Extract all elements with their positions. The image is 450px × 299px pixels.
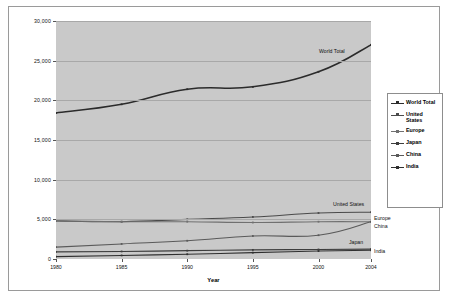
legend-label: World Total <box>406 99 439 105</box>
series-marker <box>370 221 371 223</box>
y-tick-label: 5,000 <box>11 216 51 222</box>
y-tick-label: 15,000 <box>11 137 51 143</box>
series-marker <box>121 251 123 253</box>
series-marker <box>121 221 123 223</box>
legend-label: United States <box>406 111 439 123</box>
legend-item-europe[interactable]: Europe <box>391 127 439 135</box>
series-marker <box>252 249 254 251</box>
series-label-china: China <box>374 223 388 229</box>
chart-legend: World TotalUnited StatesEuropeJapanChina… <box>387 93 443 208</box>
series-marker <box>56 112 57 114</box>
legend-swatch-icon <box>391 152 404 159</box>
x-tick-label: 2004 <box>351 264 391 270</box>
y-tick-label: 0 <box>11 256 51 262</box>
plot-area <box>56 21 371 259</box>
y-tick-mark <box>53 180 56 181</box>
series-line <box>56 222 371 247</box>
gridline <box>56 140 371 141</box>
legend-swatch-icon <box>391 128 404 135</box>
gridline <box>56 61 371 62</box>
legend-item-japan[interactable]: Japan <box>391 139 439 147</box>
x-tick-mark <box>253 259 254 262</box>
x-tick-label: 1985 <box>102 264 142 270</box>
legend-label: China <box>406 151 439 157</box>
series-marker <box>186 88 188 90</box>
legend-swatch-icon <box>391 100 404 107</box>
legend-label: India <box>406 163 439 169</box>
x-axis-title: Year <box>56 277 371 283</box>
gridline <box>56 21 371 22</box>
y-tick-mark <box>53 100 56 101</box>
legend-label: Europe <box>406 127 439 133</box>
legend-item-china[interactable]: China <box>391 151 439 159</box>
gridline <box>56 180 371 181</box>
y-tick-mark <box>53 140 56 141</box>
legend-item-united-states[interactable]: United States <box>391 111 439 123</box>
series-marker <box>252 86 254 88</box>
series-marker <box>252 216 254 218</box>
series-marker <box>252 235 254 237</box>
series-marker <box>186 253 188 255</box>
series-marker <box>318 234 320 236</box>
legend-item-india[interactable]: India <box>391 163 439 171</box>
y-tick-mark <box>53 61 56 62</box>
series-marker <box>252 222 254 224</box>
y-tick-mark <box>53 21 56 22</box>
x-tick-label: 1995 <box>233 264 273 270</box>
series-marker <box>318 221 320 223</box>
series-label-japan: Japan <box>349 239 363 245</box>
series-label-europe: Europe <box>374 215 391 221</box>
series-marker <box>121 255 123 257</box>
gridline <box>56 219 371 220</box>
gridline <box>56 100 371 101</box>
x-tick-mark <box>371 259 372 262</box>
legend-item-world-total[interactable]: World Total <box>391 99 439 107</box>
y-tick-label: 20,000 <box>11 97 51 103</box>
x-tick-mark <box>56 259 57 262</box>
series-label-india: India <box>374 248 385 254</box>
x-tick-mark <box>187 259 188 262</box>
series-marker <box>56 246 57 248</box>
x-tick-label: 1980 <box>36 264 76 270</box>
series-marker <box>186 240 188 242</box>
series-marker <box>186 250 188 252</box>
series-line <box>56 45 371 113</box>
y-tick-label: 30,000 <box>11 18 51 24</box>
series-marker <box>370 211 371 213</box>
y-tick-label: 25,000 <box>11 58 51 64</box>
series-line <box>56 212 371 222</box>
series-label-united-states: United States <box>333 201 364 207</box>
legend-swatch-icon <box>391 112 404 119</box>
series-marker <box>370 249 371 251</box>
series-marker <box>56 256 57 258</box>
series-marker <box>318 249 320 251</box>
legend-swatch-icon <box>391 140 404 147</box>
chart-container: Million Metric Tons of Carbon Dioxide 05… <box>8 6 440 291</box>
series-marker <box>318 71 320 73</box>
x-tick-mark <box>122 259 123 262</box>
y-tick-mark <box>53 219 56 220</box>
series-marker <box>121 243 123 245</box>
series-marker <box>318 250 320 252</box>
x-tick-label: 2000 <box>299 264 339 270</box>
series-marker <box>252 252 254 254</box>
x-tick-label: 1990 <box>167 264 207 270</box>
series-marker <box>56 251 57 253</box>
y-tick-label: 10,000 <box>11 177 51 183</box>
series-label-world-total: World Total <box>319 48 345 54</box>
series-marker <box>318 212 320 214</box>
x-tick-mark <box>319 259 320 262</box>
series-marker <box>121 103 123 105</box>
series-marker <box>186 221 188 223</box>
series-marker <box>370 44 371 46</box>
legend-swatch-icon <box>391 164 404 171</box>
legend-label: Japan <box>406 139 439 145</box>
